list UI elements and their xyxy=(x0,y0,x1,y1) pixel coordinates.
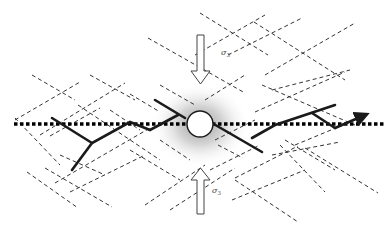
compression-arrow-bottom xyxy=(191,168,210,214)
fracture-diagram: σ3 σ3 xyxy=(0,0,391,233)
stress-label-bottom: σ3 xyxy=(212,186,221,196)
borehole xyxy=(187,111,213,137)
stress-label-top: σ3 xyxy=(221,48,230,58)
compression-arrow-top xyxy=(191,35,210,84)
